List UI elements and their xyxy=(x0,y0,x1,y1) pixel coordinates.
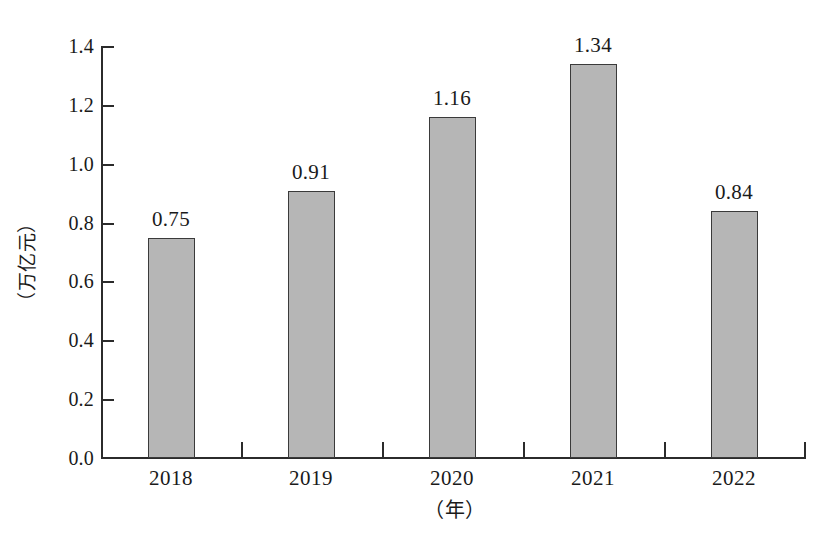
y-axis-tick-label: 0.8 xyxy=(44,213,94,233)
y-axis-tick-label: 0.2 xyxy=(44,389,94,409)
bar-2018[interactable] xyxy=(148,238,195,458)
y-axis-tick-label: 0.0 xyxy=(44,448,94,468)
x-axis-category-label-2020: 2020 xyxy=(402,466,502,490)
y-axis-tick-label-text: 0.6 xyxy=(48,271,94,291)
bar-value-label-2021: 1.34 xyxy=(543,34,643,56)
y-axis-tick xyxy=(103,281,114,283)
y-axis-tick-label-text: 1.0 xyxy=(48,154,94,174)
x-axis-title: （年） xyxy=(355,498,555,522)
y-axis-tick-label-text: 0.0 xyxy=(48,448,94,468)
x-axis-tick xyxy=(241,442,243,458)
y-axis-tick xyxy=(103,399,114,401)
x-axis-category-label-2018: 2018 xyxy=(121,466,221,490)
y-axis-tick-label-text: 1.2 xyxy=(48,95,94,115)
bar-chart-figure: 1.4 1.2 1.0 0.8 0.6 0.4 0.2 0.0 0.75 0.9… xyxy=(0,0,835,557)
y-axis-tick xyxy=(103,46,114,48)
bar-value-label-2020: 1.16 xyxy=(402,87,502,109)
x-axis-tick xyxy=(804,442,806,458)
y-axis-tick-label-text: 1.4 xyxy=(48,36,94,56)
bar-value-label-2022: 0.84 xyxy=(684,181,784,203)
y-axis-tick-label-text: 0.2 xyxy=(48,389,94,409)
y-axis-tick-label: 0.6 xyxy=(44,271,94,291)
x-axis-category-label-2021: 2021 xyxy=(543,466,643,490)
y-axis-tick xyxy=(103,105,114,107)
x-axis-category-label-2022: 2022 xyxy=(684,466,784,490)
y-axis-tick xyxy=(103,164,114,166)
y-axis-title: （万亿元） xyxy=(18,192,38,332)
bar-2019[interactable] xyxy=(288,191,335,458)
bar-value-label-2018: 0.75 xyxy=(121,208,221,230)
bar-value-label-2019: 0.91 xyxy=(261,161,361,183)
bar-2021[interactable] xyxy=(570,64,617,458)
y-axis-tick-label: 1.0 xyxy=(44,154,94,174)
x-axis-tick xyxy=(664,442,666,458)
x-axis-tick xyxy=(523,442,525,458)
y-axis-line xyxy=(101,46,103,459)
x-axis-category-label-2019: 2019 xyxy=(261,466,361,490)
y-axis-tick-label-text: 0.8 xyxy=(48,213,94,233)
bar-2020[interactable] xyxy=(429,117,476,458)
y-axis-tick xyxy=(103,340,114,342)
y-axis-tick-label: 1.4 xyxy=(44,36,94,56)
y-axis-tick-label: 0.4 xyxy=(44,330,94,350)
x-axis-tick xyxy=(101,442,103,458)
y-axis-tick-label-text: 0.4 xyxy=(48,330,94,350)
y-axis-tick xyxy=(103,223,114,225)
bar-2022[interactable] xyxy=(711,211,758,458)
y-axis-tick-label: 1.2 xyxy=(44,95,94,115)
x-axis-tick xyxy=(382,442,384,458)
